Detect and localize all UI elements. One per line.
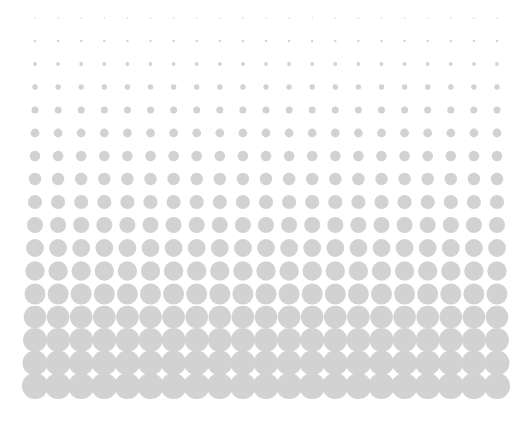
halftone-dot [470,129,479,138]
halftone-dot [239,129,248,138]
halftone-dot [192,129,201,138]
halftone-dot [468,173,480,185]
halftone-dot [147,107,154,114]
halftone-dot [102,84,107,89]
halftone-dot [79,62,83,66]
halftone-dot [375,173,387,185]
halftone-dot [210,261,229,280]
halftone-row [25,261,506,280]
halftone-dot [236,195,250,209]
halftone-dot [300,328,324,352]
halftone-dot [378,107,385,114]
halftone-dot [467,195,481,209]
halftone-dot [284,151,295,162]
halftone-dot [461,373,487,399]
halftone-row [28,195,504,209]
halftone-dot [32,84,37,89]
halftone-row [24,306,509,329]
halftone-row [30,151,503,162]
halftone-dot [100,129,109,138]
halftone-dot [309,107,316,114]
halftone-dot [306,173,318,185]
halftone-dot [120,195,134,209]
halftone-row [29,173,503,185]
halftone-dot [323,351,348,376]
halftone-dot [29,173,41,185]
halftone-dot [424,107,431,114]
halftone-dot [34,40,36,42]
halftone-dot [445,173,457,185]
halftone-dot [423,129,432,138]
halftone-row [34,40,498,42]
halftone-dot [191,151,202,162]
halftone-dot [230,373,256,399]
halftone-dot [397,217,413,233]
halftone-dot [30,151,41,162]
halftone-dot [370,328,394,352]
halftone-dot [166,217,182,233]
halftone-dot [234,239,252,257]
halftone-dot [376,151,387,162]
halftone-dot [24,306,47,329]
halftone-dot [495,62,499,66]
halftone-dot [53,151,64,162]
halftone-dot [195,62,199,66]
halftone-dot [99,151,110,162]
halftone-dot [48,261,67,280]
halftone-dot [75,173,87,185]
halftone-dot [439,328,463,352]
halftone-dot [256,261,275,280]
halftone-dot [326,239,344,257]
halftone-dot [212,217,228,233]
halftone-dot [371,284,392,305]
halftone-dot [393,306,416,329]
halftone-dot [392,373,418,399]
halftone-dot [46,351,71,376]
halftone-dot [97,195,111,209]
halftone-dot [145,151,156,162]
halftone-dot [324,306,347,329]
halftone-dot [259,195,273,209]
halftone-dot [253,373,279,399]
halftone-dot [335,17,336,18]
halftone-dot [219,40,221,42]
halftone-dot [490,195,504,209]
halftone-dot [381,17,382,18]
halftone-dot [23,351,48,376]
halftone-dot [301,306,324,329]
halftone-dot [496,40,498,42]
halftone-dot [349,261,368,280]
halftone-dot [101,107,108,114]
halftone-dot [393,328,417,352]
halftone-dot [46,328,70,352]
halftone-dot [124,107,131,114]
halftone-dot [239,107,246,114]
halftone-row [22,373,510,399]
halftone-dot [185,328,209,352]
halftone-dot [265,17,266,18]
halftone-dot [311,40,313,42]
halftone-row [33,62,499,66]
halftone-dot [485,328,509,352]
halftone-dot [190,195,204,209]
halftone-dot [148,84,153,89]
halftone-dot [396,239,414,257]
halftone-dot [286,107,293,114]
halftone-dot [255,306,278,329]
halftone-dot [374,195,388,209]
halftone-dot [370,306,393,329]
halftone-dot [444,195,458,209]
halftone-dot [277,328,301,352]
halftone-dot [114,373,140,399]
halftone-dot [208,328,232,352]
halftone-dot [485,351,510,376]
halftone-dot [258,217,274,233]
halftone-dot [240,84,245,89]
halftone-dot [217,84,222,89]
halftone-dot [300,351,325,376]
halftone-dot [256,284,277,305]
halftone-dot [173,17,174,18]
halftone-dot [287,62,291,66]
halftone-dot [425,84,430,89]
halftone-dot [449,62,453,66]
